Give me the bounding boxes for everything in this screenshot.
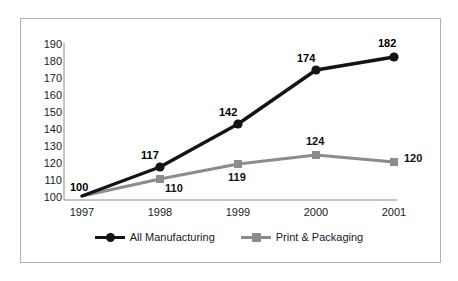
legend-item-all-manufacturing[interactable]: All Manufacturing (95, 232, 215, 243)
data-label: 110 (165, 183, 183, 194)
data-point-marker (389, 52, 398, 61)
legend-item-print-packaging[interactable]: Print & Packaging (241, 232, 363, 243)
data-label: 100 (70, 182, 88, 193)
y-axis-tick: 100 (28, 192, 62, 203)
chart-legend: All Manufacturing Print & Packaging (0, 232, 458, 243)
data-label: 119 (228, 172, 246, 183)
y-axis-tick: 150 (28, 107, 62, 118)
data-point-marker (234, 160, 242, 168)
y-axis-tick: 120 (28, 158, 62, 169)
x-axis-tick: 1997 (52, 207, 112, 218)
y-axis-tick: 140 (28, 124, 62, 135)
data-point-marker (155, 162, 164, 171)
x-axis-tick: 2001 (364, 207, 424, 218)
data-label: 120 (404, 153, 422, 164)
data-point-marker (390, 158, 398, 166)
legend-label: All Manufacturing (130, 232, 215, 243)
x-axis-tick: 2000 (286, 207, 346, 218)
data-label: 117 (141, 150, 159, 161)
data-label: 174 (297, 53, 315, 64)
data-point-marker (156, 175, 164, 183)
legend-marker-square-icon (241, 232, 271, 243)
y-axis-tick: 110 (28, 175, 62, 186)
x-axis-tick: 1998 (130, 207, 190, 218)
x-axis-tick: 1999 (208, 207, 268, 218)
legend-label: Print & Packaging (276, 232, 363, 243)
y-axis-tick: 130 (28, 141, 62, 152)
y-axis-tick: 160 (28, 90, 62, 101)
legend-marker-circle-icon (95, 232, 125, 243)
data-label: 142 (219, 107, 237, 118)
data-label: 124 (306, 136, 324, 147)
data-point-marker (311, 65, 320, 74)
data-point-marker (233, 119, 242, 128)
data-point-marker (312, 151, 320, 159)
y-axis-tick: 180 (28, 56, 62, 67)
data-label: 182 (378, 38, 396, 49)
y-axis-tick: 190 (28, 39, 62, 50)
y-axis-tick: 170 (28, 73, 62, 84)
